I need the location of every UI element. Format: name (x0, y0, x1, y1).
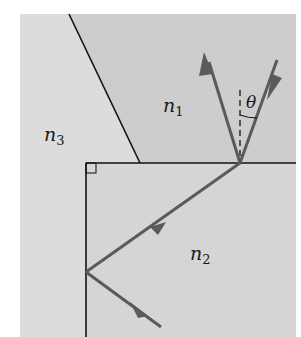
refraction-diagram: n3 n1 n2 θ (0, 0, 301, 337)
label-theta: θ (246, 92, 256, 112)
